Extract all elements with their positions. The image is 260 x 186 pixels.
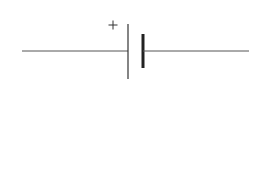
circuit-diagram: +	[0, 0, 260, 186]
cell-symbol	[0, 0, 260, 186]
plus-sign-icon	[109, 21, 118, 30]
